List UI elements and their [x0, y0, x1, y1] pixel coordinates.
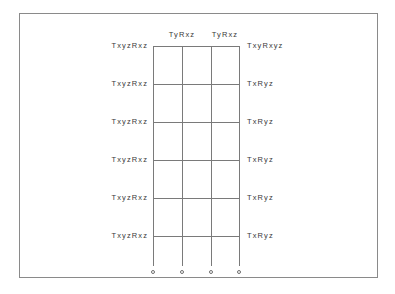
- diagram-figure: TyRxz TyRxz TxyzRxz TxyzRxz TxyzRxz Txyz…: [0, 0, 395, 294]
- row-left-label-4: TxyzRxz: [112, 156, 148, 164]
- column-top-label-1: TyRxz: [169, 31, 195, 39]
- grid: [153, 46, 240, 266]
- grid-horizontal-line-4: [153, 160, 240, 161]
- grid-vertical-line-4: [239, 46, 240, 266]
- grid-horizontal-line-6: [153, 236, 240, 237]
- row-right-label-1: TxyRxyz: [247, 42, 283, 50]
- grid-horizontal-line-2: [153, 84, 240, 85]
- row-left-label-5: TxyzRxz: [112, 194, 148, 202]
- grid-vertical-line-3: [211, 46, 212, 266]
- grid-horizontal-line-1: [153, 46, 240, 47]
- grid-horizontal-line-3: [153, 122, 240, 123]
- row-left-label-2: TxyzRxz: [112, 80, 148, 88]
- bottom-marker-4: [237, 270, 241, 274]
- row-right-label-2: TxRyz: [247, 80, 274, 88]
- row-right-label-3: TxRyz: [247, 118, 274, 126]
- bottom-marker-1: [151, 270, 155, 274]
- row-right-label-4: TxRyz: [247, 156, 274, 164]
- grid-vertical-line-2: [182, 46, 183, 266]
- column-top-label-2: TyRxz: [212, 31, 238, 39]
- row-right-label-6: TxRyz: [247, 232, 274, 240]
- grid-horizontal-line-5: [153, 198, 240, 199]
- grid-vertical-line-1: [153, 46, 154, 266]
- row-left-label-1: TxyzRxz: [112, 42, 148, 50]
- row-right-label-5: TxRyz: [247, 194, 274, 202]
- bottom-marker-3: [209, 270, 213, 274]
- row-left-label-6: TxyzRxz: [112, 232, 148, 240]
- bottom-marker-2: [180, 270, 184, 274]
- row-left-label-3: TxyzRxz: [112, 118, 148, 126]
